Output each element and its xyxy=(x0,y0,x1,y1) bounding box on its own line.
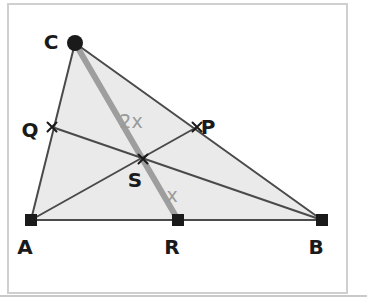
geometry-canvas: ABCPQRS2xx xyxy=(0,0,367,303)
vertex-marker-r xyxy=(172,214,184,226)
geometry-figure: ABCPQRS2xx xyxy=(0,0,367,303)
vertex-label-p: P xyxy=(201,115,216,139)
vertex-marker-c xyxy=(67,35,83,51)
vertex-marker-b xyxy=(316,214,328,226)
vertex-label-a: A xyxy=(17,235,33,259)
vertex-label-r: R xyxy=(164,235,179,259)
angle-label-x: x xyxy=(166,184,177,206)
vertex-marker-a xyxy=(25,214,37,226)
vertex-label-q: Q xyxy=(21,118,38,142)
vertex-label-b: B xyxy=(308,235,323,259)
angle-label-2x: 2x xyxy=(119,110,142,132)
vertex-label-c: C xyxy=(44,30,59,54)
vertex-label-s: S xyxy=(128,168,142,192)
